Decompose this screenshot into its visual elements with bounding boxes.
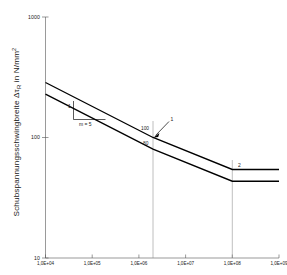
callout-1-arrow-head xyxy=(153,133,159,138)
slope-triangle-run-label: m = 5 xyxy=(79,121,92,127)
y-tick-label-10: 10 xyxy=(22,255,40,261)
callout-1-arrow-shaft xyxy=(156,122,170,136)
y-axis-title-tail: in N/mm xyxy=(12,51,21,85)
callout-label-1: 1 xyxy=(171,116,174,122)
x-tick-label-1e6: 1,0E+06 xyxy=(125,261,153,266)
curve-label-100: 100 xyxy=(141,126,149,131)
curve-detail-category-80 xyxy=(46,94,280,181)
y-axis-title: Schubspannungsschwingbreite ΔτR in N/mm2 xyxy=(13,27,21,237)
x-tick-label-1e9: 1,0E+09 xyxy=(265,261,287,266)
x-tick-label-1e4: 1,0E+04 xyxy=(32,261,60,266)
y-tick-label-1000: 1000 xyxy=(22,14,40,20)
x-tick-label-1e8: 1,0E+08 xyxy=(218,261,246,266)
y-tick-label-100: 100 xyxy=(22,134,40,140)
y-axis-title-main: Schubspannungsschwingbreite Δτ xyxy=(12,89,21,216)
y-axis-title-superscript: 2 xyxy=(11,48,17,51)
curve-label-80: 80 xyxy=(143,141,148,146)
x-tick-label-1e5: 1,0E+05 xyxy=(78,261,106,266)
y-axis-title-subscript: R xyxy=(15,85,21,89)
x-tick-label-1e7: 1,0E+07 xyxy=(172,261,200,266)
callout-label-2: 2 xyxy=(238,162,241,168)
slope-triangle-rise-label: 1 xyxy=(68,103,71,109)
plot-area xyxy=(0,0,287,275)
fatigue-strength-chart: Schubspannungsschwingbreite ΔτR in N/mm2… xyxy=(0,0,287,275)
